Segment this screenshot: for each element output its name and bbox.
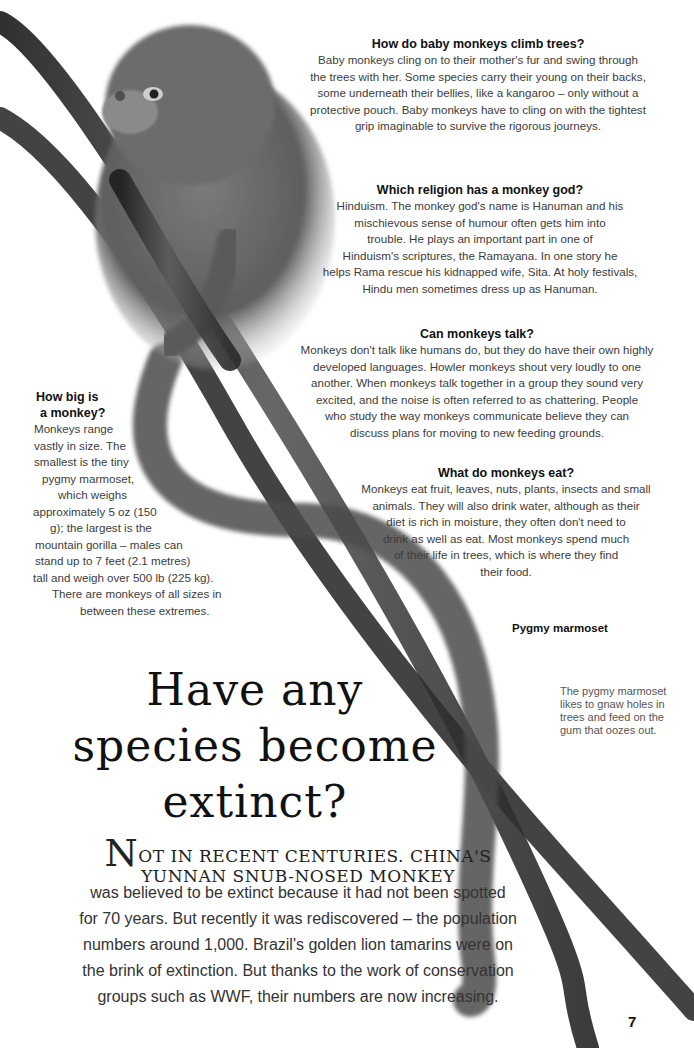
question-heading: What do monkeys eat?	[346, 465, 666, 481]
question-heading: How do baby monkeys climb trees?	[268, 36, 688, 52]
question-heading: How big is a monkey?	[28, 389, 228, 421]
qa-monkeys-eat: What do monkeys eat? Monkeys eat fruit, …	[346, 465, 666, 580]
feature-body: was believed to be extinct because it ha…	[28, 880, 568, 1010]
qa-baby-monkeys: How do baby monkeys climb trees? Baby mo…	[268, 36, 688, 135]
qa-monkey-god: Which religion has a monkey god? Hinduis…	[290, 182, 670, 297]
drop-cap: N	[105, 831, 139, 875]
image-caption-body: The pygmy marmoset likes to gnaw holes i…	[560, 685, 694, 737]
page-number: 7	[628, 1013, 636, 1030]
answer-text: Monkeys range vastly in size. The smalle…	[28, 421, 228, 619]
image-caption-title: Pygmy marmoset	[512, 622, 608, 634]
answer-text: Hinduism. The monkey god's name is Hanum…	[290, 198, 670, 297]
qa-monkey-size: How big is a monkey? Monkeys range vastl…	[28, 389, 228, 619]
answer-text: Monkeys eat fruit, leaves, nuts, plants,…	[346, 481, 666, 580]
question-heading: Which religion has a monkey god?	[290, 182, 670, 198]
feature-lede: NOT IN RECENT CENTURIES. CHINA'S YUNNAN …	[28, 838, 568, 885]
qa-monkeys-talk: Can monkeys talk? Monkeys don't talk lik…	[262, 326, 692, 441]
feature-headline: Have any species become extinct?	[30, 662, 480, 830]
question-heading: Can monkeys talk?	[262, 326, 692, 342]
answer-text: Monkeys don't talk like humans do, but t…	[262, 342, 692, 441]
answer-text: Baby monkeys cling on to their mother's …	[268, 52, 688, 135]
